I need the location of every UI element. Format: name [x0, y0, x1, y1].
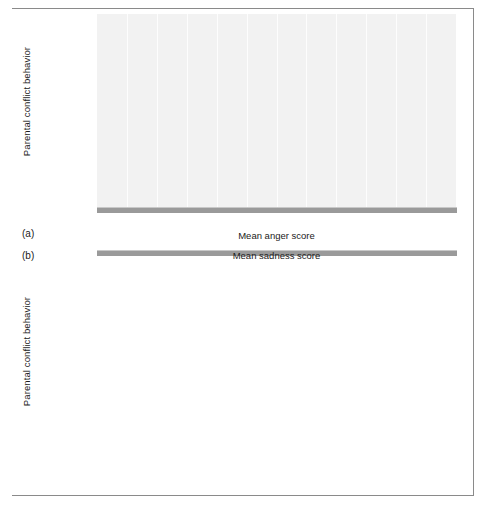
- gridline: [217, 14, 218, 207]
- gridline: [426, 14, 427, 207]
- gridline: [187, 14, 188, 207]
- gridline: [306, 14, 307, 207]
- y-axis-title-b: Parental conflict behavior: [21, 282, 32, 422]
- chart-panel-b: Parental conflict behavior Mean sadness …: [0, 250, 488, 500]
- x-axis-baseline-a: [97, 207, 457, 213]
- y-axis-title-a: Parental conflict behavior: [21, 32, 32, 172]
- gridline: [366, 14, 367, 207]
- panel-letter-b: (b): [22, 250, 34, 261]
- gridline: [336, 14, 337, 207]
- gridline: [277, 14, 278, 207]
- gridline: [127, 14, 128, 207]
- gridline: [157, 14, 158, 207]
- figure-container: Parental conflict behavior Mean anger sc…: [0, 0, 488, 511]
- gridline: [247, 14, 248, 207]
- chart-panel-a: Parental conflict behavior Mean anger sc…: [0, 0, 488, 250]
- gridline: [396, 14, 397, 207]
- x-axis-title-b: Mean sadness score: [97, 250, 456, 261]
- x-axis-title-a: Mean anger score: [97, 230, 456, 241]
- gridline: [456, 14, 457, 207]
- panel-letter-a: (a): [22, 228, 34, 239]
- plot-area-a: [97, 14, 456, 207]
